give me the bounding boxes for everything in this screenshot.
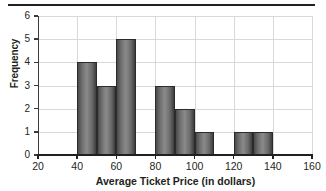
histogram-bar	[77, 62, 97, 155]
x-axis-tick-label: 120	[219, 160, 249, 172]
y-axis-tick-mark	[34, 131, 38, 132]
gridline-horizontal	[38, 39, 312, 40]
x-axis-tick-label: 40	[62, 160, 92, 172]
x-axis-tick-label: 20	[23, 160, 53, 172]
x-axis-tick-label: 160	[297, 160, 326, 172]
histogram-bar	[116, 39, 136, 155]
y-axis-tick-mark	[34, 108, 38, 109]
x-axis-tick-label: 60	[101, 160, 131, 172]
histogram-bar	[234, 132, 254, 155]
y-axis-tick-label: 1	[18, 126, 30, 137]
histogram-bar	[155, 86, 175, 156]
x-axis-tick-mark	[155, 155, 156, 159]
histogram-figure: Frequency Average Ticket Price (in dolla…	[0, 0, 326, 191]
histogram-bar	[175, 109, 195, 155]
y-axis-tick-label: 4	[18, 56, 30, 67]
gridline-vertical	[273, 16, 274, 155]
plot-area	[38, 16, 312, 155]
y-axis-tick-label: 6	[18, 10, 30, 21]
histogram-bar	[253, 132, 273, 155]
top-divider-rule	[8, 4, 315, 6]
y-axis-tick-label: 5	[18, 33, 30, 44]
y-axis-tick-mark	[34, 15, 38, 16]
y-axis-tick-label: 0	[18, 149, 30, 160]
y-axis-line	[38, 16, 39, 156]
gridline-vertical	[312, 16, 313, 155]
histogram-bar	[97, 86, 117, 156]
y-axis-tick-label: 2	[18, 103, 30, 114]
y-axis-tick-mark	[34, 85, 38, 86]
x-axis-tick-mark	[272, 155, 273, 159]
gridline-horizontal	[38, 16, 312, 17]
x-axis-tick-mark	[76, 155, 77, 159]
y-axis-tick-label: 3	[18, 80, 30, 91]
y-axis-tick-mark	[34, 62, 38, 63]
x-axis-tick-label: 140	[258, 160, 288, 172]
x-axis-tick-mark	[311, 155, 312, 159]
x-axis-tick-mark	[37, 155, 38, 159]
x-axis-tick-mark	[233, 155, 234, 159]
x-axis-tick-mark	[116, 155, 117, 159]
y-axis-tick-mark	[34, 38, 38, 39]
x-axis-tick-label: 80	[140, 160, 170, 172]
histogram-bar	[195, 132, 215, 155]
x-axis-tick-mark	[194, 155, 195, 159]
x-axis-tick-label: 100	[180, 160, 210, 172]
x-axis-title: Average Ticket Price (in dollars)	[38, 175, 313, 187]
